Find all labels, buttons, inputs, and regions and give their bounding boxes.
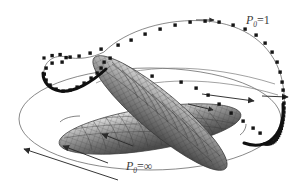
label-p0-equals-1: P0=1	[246, 14, 270, 29]
label-p0-equals-infinity: P0=∞	[126, 160, 152, 175]
label-p0-equals-infinity-value: ∞	[144, 159, 153, 173]
label-p0-equals-1-operator: =	[257, 13, 264, 27]
label-p0-equals-1-value: 1	[264, 13, 270, 27]
arrow-right-upper	[202, 94, 254, 101]
label-p0-equals-infinity-operator: =	[137, 159, 144, 173]
